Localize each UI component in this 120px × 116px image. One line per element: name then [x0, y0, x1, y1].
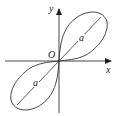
diagram-canvas: a a O y x: [0, 0, 120, 116]
segment-label-upper: a: [79, 32, 84, 43]
origin-label: O: [48, 49, 55, 60]
lemniscate-diagram: a a O y x: [0, 0, 120, 116]
y-axis-label: y: [48, 3, 54, 14]
x-axis-label: x: [105, 64, 111, 75]
segment-label-lower: a: [33, 77, 38, 88]
